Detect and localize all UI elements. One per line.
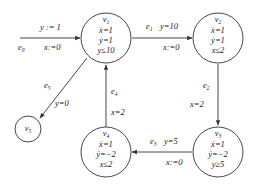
edge-e3: e3 y=5 x:=0 (132, 136, 192, 167)
svg-text:e5: e5 (44, 80, 51, 91)
svg-text:y=0: y=0 (54, 98, 70, 108)
svg-text:ẋ=1: ẋ=1 (98, 25, 113, 35)
edge-e5: e5 y=0 (40, 58, 87, 118)
state-v1: v1 ẋ=1 ẏ=1 y≤10 (81, 13, 131, 63)
state-v5: v5 (15, 116, 41, 142)
edge-e2: e2 x=2 (189, 64, 218, 125)
edge-e4: e4 x=2 (106, 65, 126, 127)
svg-text:ẋ=1: ẋ=1 (98, 139, 113, 149)
svg-text:ẏ=1: ẏ=1 (210, 35, 225, 45)
svg-text:y=10: y=10 (159, 21, 179, 31)
edge-e1: e1 y=10 x:=0 (132, 21, 192, 52)
svg-text:e3: e3 (150, 136, 157, 147)
svg-text:x:=0: x:=0 (43, 42, 61, 52)
svg-text:x:=0: x:=0 (162, 42, 180, 52)
svg-text:x≤2: x≤2 (99, 159, 113, 169)
hybrid-automaton-diagram: y := 1 e0 x:=0 e1 y=10 x:=0 e2 x=2 e3 y=… (0, 0, 254, 185)
state-v2: v2 ẋ=1 ẏ=1 x≤2 (193, 13, 243, 63)
svg-text:e1: e1 (146, 21, 153, 32)
svg-text:y=5: y=5 (163, 136, 178, 146)
svg-text:x≤2: x≤2 (211, 45, 225, 55)
edge-e0: y := 1 e0 x:=0 (18, 22, 80, 53)
svg-text:ẏ=−2: ẏ=−2 (207, 149, 228, 159)
state-v4: v4 ẋ=1 ẏ=−2 x≤2 (81, 127, 131, 177)
svg-text:e4: e4 (111, 86, 118, 97)
svg-text:y≥5: y≥5 (211, 159, 225, 169)
svg-text:ẋ=1: ẋ=1 (210, 139, 225, 149)
svg-text:ẋ=1: ẋ=1 (210, 25, 225, 35)
svg-text:x=2: x=2 (189, 99, 205, 109)
svg-text:y≤10: y≤10 (97, 45, 116, 55)
svg-text:ẏ=1: ẏ=1 (98, 35, 113, 45)
svg-text:x=2: x=2 (110, 107, 126, 117)
svg-text:ẏ=−2: ẏ=−2 (95, 149, 116, 159)
svg-text:e0: e0 (18, 42, 25, 53)
svg-text:x:=0: x:=0 (165, 157, 183, 167)
svg-text:y := 1: y := 1 (39, 22, 61, 32)
svg-text:e2: e2 (203, 80, 210, 91)
state-v3: v3 ẋ=1 ẏ=−2 y≥5 (193, 127, 243, 177)
